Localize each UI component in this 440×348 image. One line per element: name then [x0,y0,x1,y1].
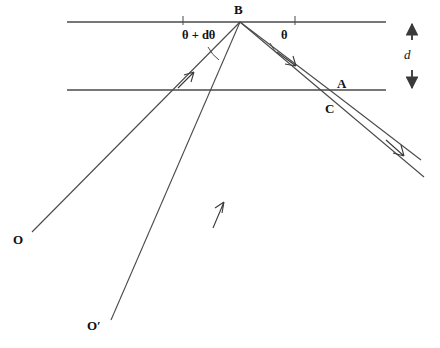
figure-canvas: B A C O O′ θ θ + dθ d [0,0,440,348]
arrowhead-on-reflected-ray-BA [277,52,296,66]
label-point-B: B [234,3,243,16]
label-angle-theta-plus-dtheta: θ + dθ [182,29,215,42]
incident-ray-from-O-prime [111,22,240,320]
ray-diagram-svg [0,0,440,348]
exit-ray-from-A [331,91,421,160]
label-point-C: C [325,102,334,115]
label-source-O-prime: O′ [87,319,101,332]
angle-arc-right-icon [270,43,280,56]
label-point-A: A [337,77,346,90]
arrowhead-on-incident-ray-O [178,72,194,88]
incident-ray-from-O [32,22,240,232]
label-separation-d: d [404,48,411,61]
label-angle-theta: θ [281,29,288,42]
arrowhead-on-exit-ray [386,140,404,156]
arrowhead-on-incident-ray-O-prime [213,202,224,228]
label-source-O: O [13,233,23,246]
